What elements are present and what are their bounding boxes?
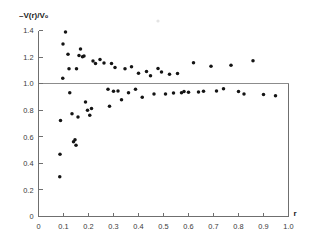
data-point-series bbox=[58, 30, 277, 178]
y-axis-tick-label: 0.6 bbox=[23, 133, 33, 142]
data-point bbox=[76, 115, 80, 119]
data-point bbox=[152, 92, 156, 96]
y-axis-tick-label: 0 bbox=[29, 212, 33, 221]
y-axis-tick-label: 1.0 bbox=[23, 79, 33, 88]
data-point bbox=[84, 100, 88, 104]
data-point bbox=[98, 58, 102, 62]
y-axis-tick-label: 0.8 bbox=[23, 106, 33, 115]
y-axis-title: –V(r)/V₀ bbox=[19, 11, 49, 20]
x-axis-tick-label: 0.4 bbox=[133, 222, 143, 231]
data-point bbox=[94, 62, 98, 65]
data-point bbox=[215, 89, 219, 93]
y-axis-tick-label: 0.2 bbox=[23, 186, 33, 195]
data-point bbox=[176, 72, 180, 76]
x-axis-tick-label: 0.6 bbox=[183, 222, 193, 231]
data-point bbox=[86, 108, 90, 112]
axis-frame-left-bottom bbox=[39, 31, 289, 217]
x-axis-tick-label: 0.1 bbox=[58, 222, 68, 231]
data-point bbox=[137, 72, 141, 76]
data-point bbox=[110, 62, 114, 65]
data-point bbox=[64, 30, 68, 34]
data-point bbox=[106, 87, 110, 91]
data-point bbox=[134, 87, 138, 91]
data-point bbox=[90, 107, 94, 111]
data-point bbox=[242, 92, 246, 96]
x-axis-tick-label: 0.3 bbox=[108, 222, 118, 231]
x-axis-tick-label: 0.9 bbox=[258, 222, 268, 231]
data-point bbox=[82, 54, 86, 58]
data-point bbox=[113, 66, 117, 70]
data-point bbox=[209, 65, 213, 69]
y-axis-tick-label: 1.2 bbox=[23, 53, 33, 62]
data-point bbox=[112, 90, 116, 94]
data-point bbox=[77, 54, 81, 58]
x-axis-tick-label: 0.5 bbox=[158, 222, 168, 231]
data-point bbox=[187, 90, 191, 94]
data-point bbox=[108, 104, 112, 108]
data-point bbox=[116, 89, 120, 93]
data-point bbox=[197, 90, 201, 94]
data-point bbox=[70, 112, 74, 116]
x-axis-tick-label: 1.0 bbox=[283, 222, 293, 231]
data-point bbox=[274, 94, 278, 98]
data-point bbox=[145, 70, 149, 74]
data-point bbox=[182, 90, 186, 94]
data-point bbox=[192, 61, 196, 65]
x-axis-tick-label: 0.2 bbox=[83, 222, 93, 231]
data-point bbox=[75, 67, 79, 71]
data-point bbox=[229, 64, 233, 68]
data-point bbox=[88, 114, 92, 118]
data-point bbox=[156, 67, 160, 71]
y-axis-tick-label: 0.4 bbox=[23, 159, 33, 168]
data-point bbox=[237, 90, 241, 94]
data-point bbox=[73, 138, 77, 142]
data-point bbox=[160, 70, 164, 74]
data-point bbox=[68, 91, 72, 95]
data-point bbox=[149, 74, 153, 78]
plot-canvas: 00.20.40.60.81.01.21.400.10.20.30.40.50.… bbox=[0, 0, 310, 241]
data-point bbox=[164, 92, 168, 96]
data-point bbox=[123, 67, 127, 71]
data-point bbox=[172, 91, 176, 95]
data-point bbox=[127, 91, 131, 95]
data-point bbox=[222, 87, 226, 91]
data-point bbox=[262, 93, 266, 97]
y-axis-tick-label: 1.4 bbox=[23, 26, 33, 35]
data-point bbox=[102, 61, 106, 65]
data-point bbox=[74, 144, 78, 148]
data-point bbox=[251, 59, 255, 63]
data-point bbox=[58, 153, 62, 157]
data-point bbox=[120, 98, 124, 102]
data-point bbox=[79, 47, 83, 51]
x-axis-tick-label: 0 bbox=[36, 222, 40, 231]
data-point bbox=[67, 67, 71, 71]
data-point bbox=[61, 42, 65, 46]
x-axis-tick-label: 0.7 bbox=[208, 222, 218, 231]
scatter-plot-figure: 00.20.40.60.81.01.21.400.10.20.30.40.50.… bbox=[0, 0, 310, 241]
data-point bbox=[66, 52, 70, 56]
x-axis-title: r bbox=[294, 209, 297, 218]
data-point bbox=[61, 77, 65, 81]
image-speck-artifact bbox=[156, 19, 159, 22]
data-point bbox=[59, 119, 63, 123]
x-axis-tick-label: 0.8 bbox=[233, 222, 243, 231]
data-point bbox=[130, 65, 134, 69]
data-point bbox=[202, 90, 206, 94]
data-point bbox=[141, 95, 145, 99]
data-point bbox=[58, 175, 62, 179]
data-point bbox=[168, 73, 172, 77]
